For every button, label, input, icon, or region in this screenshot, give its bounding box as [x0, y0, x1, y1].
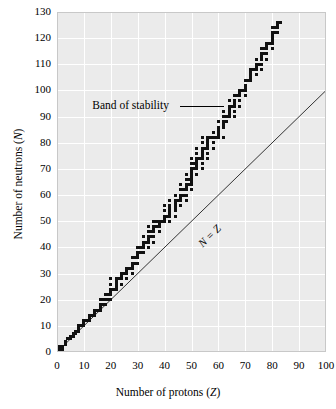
data-point: [125, 272, 128, 275]
data-point: [142, 235, 145, 238]
data-point: [64, 343, 67, 346]
data-point: [64, 340, 67, 343]
data-point: [158, 222, 161, 225]
data-point: [115, 280, 118, 283]
data-point: [152, 228, 155, 231]
x-axis-tick-label: 10: [69, 360, 99, 371]
data-point: [238, 94, 241, 97]
data-point: [136, 256, 139, 259]
data-point: [142, 243, 145, 246]
data-point: [222, 110, 225, 113]
x-axis-tick-label: 0: [42, 360, 72, 371]
data-point: [82, 322, 85, 325]
data-point: [147, 241, 150, 244]
y-axis-tick-label: 100: [3, 84, 51, 95]
data-point: [228, 110, 231, 113]
data-point: [109, 283, 112, 286]
y-axis-tick-label: 10: [3, 320, 51, 331]
data-point: [142, 251, 145, 254]
data-point: [174, 204, 177, 207]
data-point: [255, 68, 258, 71]
data-point: [120, 283, 123, 286]
data-point: [228, 115, 231, 118]
data-point: [125, 269, 128, 272]
data-point: [147, 225, 150, 228]
data-point: [179, 196, 182, 199]
data-point: [109, 293, 112, 296]
data-point: [233, 105, 236, 108]
data-point: [249, 73, 252, 76]
data-point: [77, 327, 80, 330]
data-point: [271, 39, 274, 42]
y-axis-tick-label: 50: [3, 215, 51, 226]
data-point: [255, 73, 258, 76]
data-point: [158, 230, 161, 233]
data-point: [69, 337, 72, 340]
data-point: [206, 152, 209, 155]
data-point: [93, 311, 96, 314]
data-point: [131, 272, 134, 275]
band-of-stability-label: Band of stability: [92, 99, 169, 111]
data-point: [179, 199, 182, 202]
data-point: [163, 204, 166, 207]
x-axis-tick-label: 50: [177, 360, 207, 371]
data-point: [131, 264, 134, 267]
data-point: [276, 24, 279, 27]
data-point: [265, 58, 268, 61]
data-point: [217, 126, 220, 129]
data-point: [168, 199, 171, 202]
data-point: [174, 209, 177, 212]
data-point: [99, 309, 102, 312]
data-point: [168, 207, 171, 210]
data-point: [88, 317, 91, 320]
data-point: [61, 348, 64, 351]
y-axis-title: Number of neutrons (N): [12, 104, 24, 264]
data-point: [168, 212, 171, 215]
y-axis-tick-label: 130: [3, 6, 51, 17]
data-point: [217, 120, 220, 123]
x-axis-tick-label: 100: [311, 360, 336, 371]
data-point: [163, 209, 166, 212]
data-point: [201, 152, 204, 155]
data-point: [260, 55, 263, 58]
data-point: [179, 204, 182, 207]
data-point: [260, 63, 263, 66]
data-point: [249, 71, 252, 74]
y-axis-tick-label: 30: [3, 268, 51, 279]
data-point: [99, 306, 102, 309]
data-point: [190, 170, 193, 173]
data-point: [195, 162, 198, 165]
data-point: [238, 92, 241, 95]
data-point: [109, 277, 112, 280]
x-axis-tick-label: 20: [96, 360, 126, 371]
data-point: [279, 21, 282, 24]
data-point: [276, 26, 279, 29]
data-point: [185, 194, 188, 197]
data-point: [82, 324, 85, 327]
data-point: [255, 65, 258, 68]
data-point: [190, 183, 193, 186]
data-point: [163, 220, 166, 223]
data-point: [152, 241, 155, 244]
x-axis-tick-label: 70: [230, 360, 260, 371]
data-point: [93, 314, 96, 317]
data-point: [228, 113, 231, 116]
data-point: [190, 157, 193, 160]
data-point: [233, 99, 236, 102]
data-point: [217, 136, 220, 139]
y-axis-tick-label: 90: [3, 111, 51, 122]
data-point: [152, 235, 155, 238]
data-point: [271, 37, 274, 40]
y-axis-tick-label: 70: [3, 163, 51, 174]
data-point: [265, 52, 268, 55]
data-point: [195, 165, 198, 168]
data-point: [265, 47, 268, 50]
data-point: [260, 68, 263, 71]
y-axis-tick-label: 110: [3, 58, 51, 69]
data-point: [201, 157, 204, 160]
y-axis-tick-label: 80: [3, 137, 51, 148]
data-point: [201, 162, 204, 165]
data-point: [233, 115, 236, 118]
data-point: [109, 290, 112, 293]
data-point: [109, 298, 112, 301]
